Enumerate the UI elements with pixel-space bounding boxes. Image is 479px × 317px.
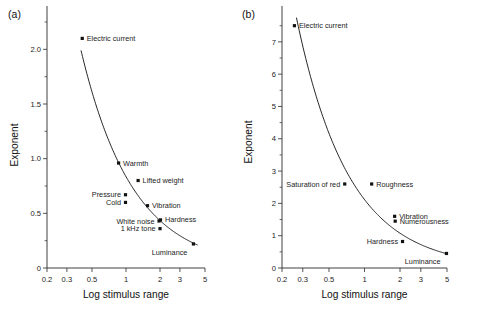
y-tick-label: 2.0: [30, 45, 41, 54]
figure-container: (a) 00.51.01.52.00.20.30.51235Log stimul…: [0, 0, 479, 317]
data-point-marker: [157, 219, 160, 222]
data-point: Lifted weight: [137, 176, 184, 185]
panel-a-plot: 00.51.01.52.00.20.30.51235Log stimulus r…: [0, 0, 240, 317]
data-point-label: Roughness: [376, 180, 413, 189]
data-point: Vibration: [146, 201, 181, 210]
y-tick-label: 4: [272, 134, 276, 143]
data-point-marker: [158, 227, 161, 230]
data-point: Cold: [106, 198, 127, 207]
y-tick-label: 3: [272, 167, 276, 176]
data-point-label: Hardness: [367, 237, 399, 246]
x-tick-label: 2: [158, 275, 162, 284]
data-point: Luminance: [405, 252, 448, 267]
data-point: Luminance: [152, 242, 195, 257]
x-tick-label: 0.5: [87, 275, 98, 284]
data-point-label: Warmth: [123, 159, 148, 168]
y-axis-title: Exponent: [243, 120, 254, 163]
y-tick-label: 0: [272, 264, 276, 273]
data-point-marker: [445, 252, 448, 255]
y-tick-label: 0: [37, 264, 41, 273]
x-tick-label: 3: [178, 275, 182, 284]
y-tick-label: 1.5: [30, 100, 41, 109]
x-tick-label: 1: [124, 275, 128, 284]
y-tick-label: 1.0: [30, 154, 41, 163]
data-point-label: Numerousness: [400, 217, 449, 226]
data-point-label: 1 kHz tone: [121, 224, 156, 233]
x-tick-label: 0.5: [324, 275, 335, 284]
data-point: Hardness: [367, 237, 404, 246]
data-point-label: Lifted weight: [143, 176, 184, 185]
data-point-label: Luminance: [405, 257, 441, 266]
panel-b: (b) 012345670.20.30.51235Log stimulus ra…: [232, 0, 479, 317]
y-tick-label: 0.5: [30, 209, 41, 218]
data-point-label: Vibration: [152, 201, 181, 210]
x-tick-label: 5: [203, 275, 207, 284]
data-point-marker: [293, 24, 296, 27]
data-point-label: Cold: [106, 198, 121, 207]
x-tick-label: 5: [445, 275, 449, 284]
y-tick-label: 6: [272, 70, 276, 79]
data-point: 1 kHz tone: [121, 224, 162, 233]
x-tick-label: 0.3: [62, 275, 73, 284]
panel-b-plot: 012345670.20.30.51235Log stimulus rangeE…: [232, 0, 479, 317]
data-point-marker: [343, 182, 346, 185]
data-point-label: Electric current: [87, 34, 136, 43]
data-point-marker: [393, 215, 396, 218]
data-point-marker: [137, 179, 140, 182]
x-tick-label: 0.2: [277, 275, 288, 284]
data-point-label: Luminance: [152, 248, 188, 257]
data-point: Electric current: [293, 21, 348, 30]
data-point-marker: [124, 193, 127, 196]
panel-a: (a) 00.51.01.52.00.20.30.51235Log stimul…: [0, 0, 240, 317]
data-point-label: Hardness: [165, 215, 197, 224]
y-tick-label: 7: [272, 38, 276, 47]
y-tick-label: 5: [272, 102, 276, 111]
data-point-marker: [124, 201, 127, 204]
x-tick-label: 0.2: [42, 275, 53, 284]
y-tick-label: 1: [272, 231, 276, 240]
data-point: Warmth: [117, 159, 148, 168]
data-point: Hardness: [159, 215, 197, 224]
x-tick-label: 3: [419, 275, 423, 284]
data-point-marker: [401, 240, 404, 243]
data-point-marker: [394, 220, 397, 223]
x-tick-label: 0.3: [298, 275, 309, 284]
data-point: Numerousness: [394, 217, 450, 226]
data-point-marker: [81, 37, 84, 40]
data-point: Saturation of red: [286, 180, 346, 189]
y-tick-label: 2: [272, 199, 276, 208]
x-axis-title: Log stimulus range: [83, 289, 169, 300]
data-point-label: Electric current: [299, 21, 348, 30]
data-point-marker: [146, 204, 149, 207]
y-axis-title: Exponent: [9, 123, 20, 166]
data-point: Electric current: [81, 34, 136, 43]
data-point-marker: [370, 182, 373, 185]
data-point-marker: [117, 161, 120, 164]
data-point: Roughness: [370, 180, 413, 189]
data-point-marker: [192, 242, 195, 245]
data-point-label: Saturation of red: [286, 180, 340, 189]
x-axis-title: Log stimulus range: [321, 289, 407, 300]
x-tick-label: 2: [398, 275, 402, 284]
x-tick-label: 1: [362, 275, 366, 284]
